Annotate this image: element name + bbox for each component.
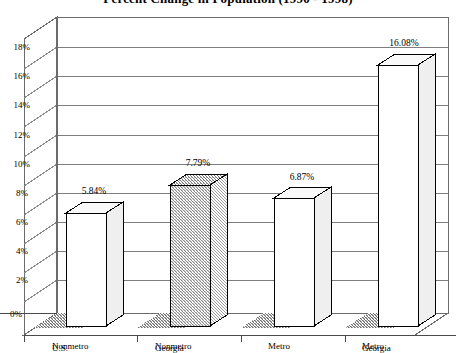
y-tick-label-10: 10% [14,159,31,169]
y-tick-label-2: 2% [16,275,29,285]
x-axis-category-labels: Nonmetro Nonmetro Metro Metro [52,341,384,350]
value-label-nonmetro-us: 5.84% [82,186,107,196]
bar-nonmetro-us[interactable] [66,202,123,326]
y-tick-label-4: 4% [16,246,29,256]
cat-label-metro-line1: Metro [268,341,290,350]
chart-title-group: Percent Change in Population (1990 - 199… [103,0,352,6]
y-tick-label-14: 14% [14,100,31,110]
plot-left-wall [24,17,57,335]
cat-label-nonmetro-us-line2: U.S. [52,343,68,353]
y-tick-label-8: 8% [16,188,29,198]
y-tick-label-16: 16% [14,71,31,81]
bar-metro-georgia[interactable] [378,54,435,326]
value-label-metro: 6.87% [290,172,315,182]
y-tick-label-12: 12% [14,130,31,140]
bar-nonmetro-georgia[interactable] [170,174,227,326]
value-label-metro-georgia: 16.08% [389,38,418,48]
value-label-nonmetro-georgia: 7.79% [186,158,211,168]
cat-label-nonmetro-georgia-line2: Georgia [155,343,184,353]
y-tick-label-6: 6% [16,217,29,227]
page-title: Percent Change in Population (1990 - 199… [103,0,352,6]
y-tick-label-18: 18% [14,42,31,52]
y-tick-label-0: 0% [10,309,23,319]
cat-label-metro-georgia-line2: Georgia [362,343,391,353]
bar-metro[interactable] [274,187,331,326]
